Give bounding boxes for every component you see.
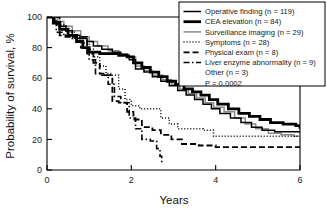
legend-label: P = 0.0002 <box>205 79 242 88</box>
y-tick-label: 80 <box>32 43 42 53</box>
y-tick-label: 100 <box>27 12 42 22</box>
x-tick-label: 4 <box>213 175 218 185</box>
y-tick-label: 40 <box>32 104 42 114</box>
chart-canvas: 020406080100 0246 Probability of surviva… <box>0 0 327 210</box>
x-axis-title: Years <box>160 194 189 206</box>
y-tick-label: 20 <box>32 135 42 145</box>
legend-label: Operative finding (n = 119) <box>205 7 295 16</box>
legend-label: Liver enzyme abnormality (n = 9) <box>205 58 316 67</box>
legend-label: Surveillance imaging (n = 29) <box>205 28 304 37</box>
y-tick-label: 0 <box>37 165 42 175</box>
y-tick-label: 60 <box>32 73 42 83</box>
x-axis-tick-labels: 0246 <box>44 175 302 185</box>
kaplan-meier-chart: 020406080100 0246 Probability of surviva… <box>0 0 327 210</box>
x-tick-label: 0 <box>44 175 49 185</box>
x-tick-label: 2 <box>129 175 134 185</box>
legend-label: Physical exam (n = 8) <box>205 48 279 57</box>
legend: Operative finding (n = 119)CEA elevation… <box>179 2 325 88</box>
legend-label: Other (n = 3) <box>205 68 249 77</box>
x-axis-ticks <box>47 165 300 170</box>
curve-liver-enzyme-abnormality <box>47 17 162 164</box>
y-axis-title: Probability of survival, % <box>4 33 16 158</box>
y-axis-tick-labels: 020406080100 <box>27 12 42 175</box>
legend-label: Symptoms (n = 28) <box>205 38 270 47</box>
legend-label: CEA elevation (n = 84) <box>205 17 282 26</box>
y-axis-ticks <box>47 17 52 170</box>
x-tick-label: 6 <box>297 175 302 185</box>
